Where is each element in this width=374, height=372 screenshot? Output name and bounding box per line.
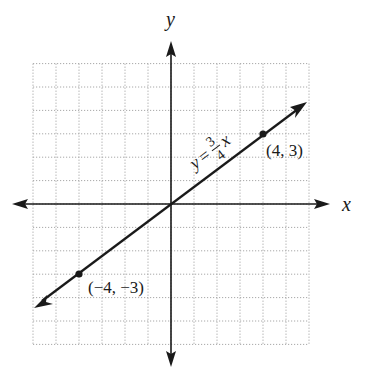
point-label-4-3: (4, 3) (266, 141, 303, 160)
equation-denominator: 4 (213, 147, 228, 163)
point-4-3 (259, 130, 266, 137)
point-neg4-neg3 (75, 270, 82, 277)
line-lower-arrow-icon (34, 295, 53, 308)
coordinate-plane: x y (4, 3) (−4, −3) y = 3 4 x (0, 0, 374, 372)
x-axis-label: x (341, 193, 351, 215)
y-axis-label: y (164, 8, 175, 31)
line-upper-arrow-icon (290, 102, 307, 118)
equation-numerator: 3 (203, 133, 218, 149)
point-label-neg4-neg3: (−4, −3) (88, 278, 144, 297)
